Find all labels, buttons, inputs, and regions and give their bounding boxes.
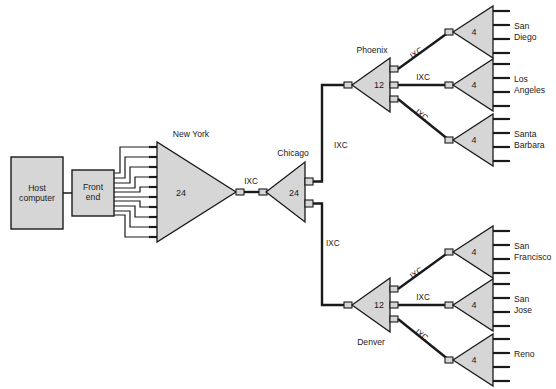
terminal-capacity-los-angeles: 4 xyxy=(471,80,476,90)
link-label-chicago-denver: IXC xyxy=(326,239,340,248)
network-diagram-canvas: Host computer Front end New York 24 xyxy=(0,0,556,389)
connector-san-francisco-in xyxy=(445,249,453,255)
mux-denver-capacity: 12 xyxy=(374,300,384,310)
terminal-capacity-reno: 4 xyxy=(471,355,476,365)
link-label-denver-reno: IXC xyxy=(413,327,429,343)
terminal-los-angeles: 4 Los Angeles xyxy=(445,59,545,111)
terminal-label-san-diego-line2: Diego xyxy=(514,32,537,42)
connector-phoenix-out-3 xyxy=(390,96,398,102)
link-denver-sanfrancisco xyxy=(398,252,449,289)
connector-chicago-out-upper xyxy=(305,178,313,185)
link-label-denver-sanjose: IXC xyxy=(416,293,430,302)
mux-denver-label: Denver xyxy=(357,337,385,347)
terminal-label-san-francisco-line1: San xyxy=(514,241,530,251)
frontend-to-newyork-wires xyxy=(114,147,149,237)
host-computer-label-line2: computer xyxy=(19,193,55,203)
link-label-chicago-phoenix: IXC xyxy=(334,141,348,150)
connector-reno-in xyxy=(445,357,453,363)
mux-denver xyxy=(352,278,390,332)
mux-phoenix-capacity: 12 xyxy=(374,80,384,90)
connector-chicago-out-lower xyxy=(305,200,313,207)
terminal-label-san-diego-line1: San xyxy=(514,21,530,31)
terminal-label-reno-line1: Reno xyxy=(514,349,535,359)
link-label-newyork-chicago: IXC xyxy=(244,177,258,186)
connector-denver-out-2 xyxy=(390,302,398,308)
link-label-phoenix-losangeles: IXC xyxy=(416,73,430,82)
mux-phoenix-label: Phoenix xyxy=(356,45,388,55)
front-end-label-line1: Front xyxy=(83,182,104,192)
connector-santa-barbara-in xyxy=(445,137,453,143)
mux-new-york-label: New York xyxy=(173,129,210,139)
connector-denver-out-1 xyxy=(390,286,398,292)
terminal-san-francisco: 4 San Francisco xyxy=(445,226,551,278)
link-chicago-denver xyxy=(313,204,348,306)
newyork-input-stubs xyxy=(149,147,157,237)
connector-denver-in xyxy=(344,302,352,308)
terminal-label-san-jose-line1: San xyxy=(514,294,530,304)
terminal-label-santa-barbara-line2: Barbara xyxy=(514,140,545,150)
terminal-label-san-francisco-line2: Francisco xyxy=(514,252,551,262)
mux-chicago-label: Chicago xyxy=(277,148,309,158)
terminal-capacity-san-diego: 4 xyxy=(471,27,476,37)
front-end-label-line2: end xyxy=(86,192,101,202)
terminal-capacity-santa-barbara: 4 xyxy=(471,135,476,145)
network-diagram: Host computer Front end New York 24 xyxy=(0,0,556,389)
connector-san-jose-in xyxy=(445,302,453,308)
mux-new-york-capacity: 24 xyxy=(176,188,186,198)
terminal-san-jose: 4 San Jose xyxy=(445,279,532,331)
connector-phoenix-in xyxy=(344,82,352,88)
terminal-label-los-angeles-line1: Los xyxy=(514,74,528,84)
terminal-label-los-angeles-line2: Angeles xyxy=(514,85,545,95)
terminal-capacity-san-francisco: 4 xyxy=(471,247,476,257)
connector-newyork-out xyxy=(236,189,244,195)
connector-phoenix-out-1 xyxy=(390,66,398,72)
mux-chicago xyxy=(266,162,305,222)
host-computer-label-line1: Host xyxy=(28,183,46,193)
mux-new-york xyxy=(157,142,236,242)
link-label-phoenix-sandiego: IXC xyxy=(408,45,424,60)
mux-phoenix xyxy=(352,58,390,112)
terminal-capacity-san-jose: 4 xyxy=(471,300,476,310)
terminal-san-diego: 4 San Diego xyxy=(445,6,537,58)
connector-phoenix-out-2 xyxy=(390,82,398,88)
link-phoenix-sandiego xyxy=(398,32,449,69)
terminal-santa-barbara: 4 Santa Barbara xyxy=(445,114,545,166)
mux-chicago-capacity: 24 xyxy=(289,188,299,198)
terminal-label-santa-barbara-line1: Santa xyxy=(514,129,537,139)
connector-denver-out-3 xyxy=(390,316,398,322)
connector-los-angeles-in xyxy=(445,82,453,88)
terminal-reno: 4 Reno xyxy=(445,334,535,386)
terminal-label-san-jose-line2: Jose xyxy=(514,305,532,315)
connector-san-diego-in xyxy=(445,29,453,35)
link-label-denver-sanfrancisco: IXC xyxy=(408,265,424,280)
link-label-phoenix-santabarbara: IXC xyxy=(413,107,429,123)
link-chicago-phoenix xyxy=(313,85,348,182)
